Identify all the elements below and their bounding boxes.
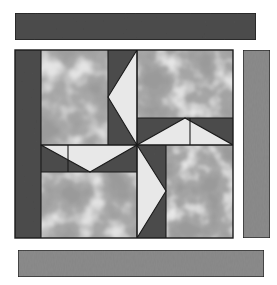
quilt-block-figure: [0, 0, 277, 285]
top-sashing-strip: [15, 13, 256, 40]
corner-patch-bottom-right: [166, 145, 233, 238]
quilt-diagram-canvas: [0, 0, 277, 285]
left-inner-dark-strip: [15, 50, 41, 238]
pinwheel-block-body: [15, 50, 233, 238]
corner-patch-top-right: [137, 50, 233, 118]
right-sashing-strip: [243, 50, 270, 238]
bottom-sashing-strip: [18, 250, 264, 277]
corner-patch-bottom-left: [41, 172, 137, 238]
corner-patch-top-left: [41, 50, 108, 145]
